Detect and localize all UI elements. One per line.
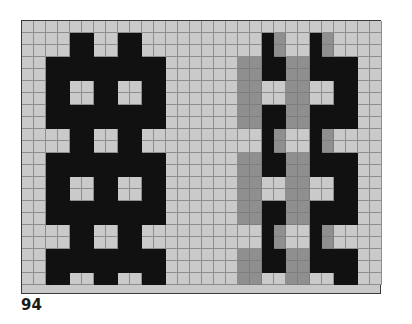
grid-cell (46, 237, 58, 249)
grid-cell (238, 141, 250, 153)
grid-cell (34, 273, 46, 285)
grid-cell (238, 45, 250, 57)
grid-cell (298, 129, 310, 141)
grid-cell (58, 141, 70, 153)
grid-cell (94, 189, 106, 201)
grid-cell (226, 177, 238, 189)
grid-cell (154, 153, 166, 165)
grid-cell (370, 81, 382, 93)
grid-cell (358, 33, 370, 45)
grid-cell (262, 201, 274, 213)
grid-cell (34, 57, 46, 69)
grid-cell (106, 189, 118, 201)
grid-cell (334, 177, 346, 189)
grid-cell (166, 165, 178, 177)
grid-cell (214, 105, 226, 117)
grid-cell (250, 201, 262, 213)
grid-cell (238, 81, 250, 93)
grid-cell (202, 117, 214, 129)
grid-canvas (21, 20, 381, 294)
grid-cell (58, 105, 70, 117)
grid-cell (118, 237, 130, 249)
grid-cell (262, 33, 274, 45)
grid-cell (190, 81, 202, 93)
grid-cell (286, 141, 298, 153)
grid-cell (190, 21, 202, 33)
grid-cell (82, 33, 94, 45)
grid-cell (238, 129, 250, 141)
grid-cell (202, 177, 214, 189)
grid-cell (178, 273, 190, 285)
grid-cell (250, 81, 262, 93)
grid-cell (118, 129, 130, 141)
grid-cell (334, 249, 346, 261)
grid-cell (34, 237, 46, 249)
grid-cell (166, 45, 178, 57)
grid-cell (202, 81, 214, 93)
grid-cell (106, 165, 118, 177)
grid-cell (130, 249, 142, 261)
grid-cell (322, 141, 334, 153)
grid-cell (190, 273, 202, 285)
grid-cell (226, 129, 238, 141)
grid-cell (214, 33, 226, 45)
grid-cell (370, 213, 382, 225)
grid-cell (190, 69, 202, 81)
grid-cell (334, 225, 346, 237)
grid-cell (154, 141, 166, 153)
grid-cell (130, 57, 142, 69)
grid-cell (250, 165, 262, 177)
grid-cell (262, 81, 274, 93)
grid-cell (310, 33, 322, 45)
grid-cell (130, 117, 142, 129)
grid-cell (274, 117, 286, 129)
grid-cell (370, 177, 382, 189)
grid-cell (310, 69, 322, 81)
grid-cell (274, 225, 286, 237)
grid-cell (142, 261, 154, 273)
grid-cell (58, 201, 70, 213)
grid-cell (346, 117, 358, 129)
grid-cell (154, 177, 166, 189)
grid-cell (298, 33, 310, 45)
grid-cell (34, 129, 46, 141)
grid-cell (58, 165, 70, 177)
grid-cell (226, 69, 238, 81)
grid-cell (178, 57, 190, 69)
grid-cell (358, 165, 370, 177)
grid-cell (190, 237, 202, 249)
grid-cell (130, 165, 142, 177)
grid-cell (130, 189, 142, 201)
grid-cell (34, 153, 46, 165)
grid-cell (22, 273, 34, 285)
grid-cell (82, 81, 94, 93)
grid-cell (250, 225, 262, 237)
grid-cell (262, 141, 274, 153)
grid-cell (190, 261, 202, 273)
grid-cell (274, 33, 286, 45)
grid-cell (250, 237, 262, 249)
grid-cell (250, 105, 262, 117)
grid-cell (166, 93, 178, 105)
grid-cell (346, 189, 358, 201)
grid-cell (202, 57, 214, 69)
grid-cell (346, 33, 358, 45)
grid-cell (310, 105, 322, 117)
grid-cell (346, 237, 358, 249)
grid-cell (46, 57, 58, 69)
grid-cell (130, 237, 142, 249)
grid-cell (82, 141, 94, 153)
grid-cell (238, 225, 250, 237)
grid-cell (286, 201, 298, 213)
grid-cell (226, 165, 238, 177)
grid-cell (82, 105, 94, 117)
grid-cell (286, 249, 298, 261)
grid-cell (82, 21, 94, 33)
grid-cell (106, 93, 118, 105)
grid-cell (334, 141, 346, 153)
grid-cell (202, 165, 214, 177)
grid-cell (106, 33, 118, 45)
grid-cell (154, 117, 166, 129)
grid-cell (226, 141, 238, 153)
grid-cell (118, 105, 130, 117)
